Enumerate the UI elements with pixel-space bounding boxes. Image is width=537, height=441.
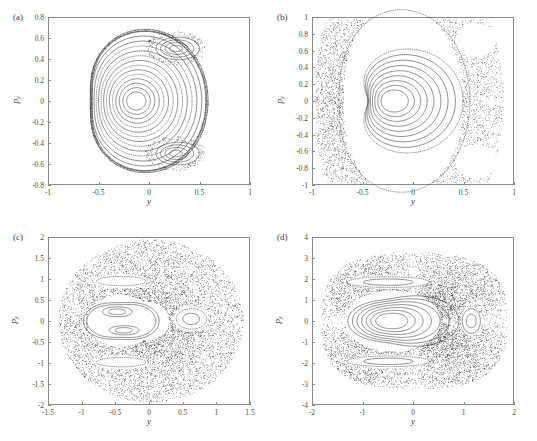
panel-b-ytickmark-2 (312, 151, 315, 152)
panel-d-ytick-7: 3 (282, 254, 308, 263)
panel-a-xtickmark-2 (149, 182, 150, 185)
panel-c-xtickmark-2 (115, 402, 116, 405)
panel-d-ytick-0: -4 (282, 401, 308, 410)
panel-b-xtick-4: 1 (512, 188, 516, 197)
panel-d-xtickmark-4 (514, 402, 515, 405)
panel-c-xtickmark-6 (250, 402, 251, 405)
panel-c-xtick-6: 1.5 (245, 408, 254, 417)
panel-b-ytickmark-1 (312, 168, 315, 169)
panel-c-xtickmark-5 (216, 402, 217, 405)
panel-d-ytick-6: 2 (282, 275, 308, 284)
panel-c-ytick-0: -2 (18, 401, 44, 410)
panel-c-xtickmark-4 (183, 402, 184, 405)
panel-d-xtick-1: -1 (359, 408, 365, 417)
panel-c-ytick-1: -1.5 (18, 380, 44, 389)
panel-b-ytick-9: 0.8 (282, 29, 308, 38)
panel-a-ytick-4: 0 (18, 97, 44, 106)
panel-c-xtick-5: 1 (214, 408, 218, 417)
panel-c-ytickmark-1 (48, 384, 51, 385)
panel-b-ytickmark-7 (312, 67, 315, 68)
panel-a-ytickmark-7 (48, 38, 51, 39)
panel-b-ytickmark-9 (312, 34, 315, 35)
panel-a-ytick-1: -0.6 (18, 160, 44, 169)
panel-b-xtickmark-1 (363, 182, 364, 185)
panel-c-ytickmark-0 (48, 405, 51, 406)
panel-a-ytick-7: 0.6 (18, 34, 44, 43)
panel-b-ytick-6: 0.2 (282, 80, 308, 89)
panel-a-xtick-2: 0 (147, 188, 151, 197)
panel-d-orbits (0, 0, 537, 441)
panel-d-ytick-3: -1 (282, 338, 308, 347)
panel-a-ytick-3: -0.2 (18, 118, 44, 127)
panel-c-xtick-1: -1 (79, 408, 85, 417)
panel-d-xtick-2: 0 (411, 408, 415, 417)
panel-b-ytick-5: 0 (282, 97, 308, 106)
panel-a-ytick-0: -0.8 (18, 181, 44, 190)
panel-a-ytickmark-8 (48, 17, 51, 18)
panel-d-ytick-1: -3 (282, 380, 308, 389)
panel-b-xtick-0: -1 (309, 188, 315, 197)
panel-d-xaxis-title: y (411, 416, 415, 426)
panel-c-ytick-3: -0.5 (18, 338, 44, 347)
panel-b-ytickmark-3 (312, 135, 315, 136)
panel-a-ytick-8: 0.8 (18, 13, 44, 22)
panel-c-ytickmark-6 (48, 279, 51, 280)
panel-a-ytick-6: 0.4 (18, 55, 44, 64)
panel-d-ytickmark-4 (312, 321, 315, 322)
panel-b-ytick-8: 0.6 (282, 46, 308, 55)
panel-d-ytick-5: 1 (282, 296, 308, 305)
panel-d-ytickmark-1 (312, 384, 315, 385)
panel-c-ytickmark-7 (48, 258, 51, 259)
panel-b-xtick-1: -0.5 (357, 188, 369, 197)
panel-b-ytick-1: -0.8 (282, 164, 308, 173)
panel-c-ytickmark-2 (48, 363, 51, 364)
panel-b-ytick-0: -1 (282, 181, 308, 190)
panel-c-xtickmark-3 (149, 402, 150, 405)
panel-b-ytick-4: -0.2 (282, 113, 308, 122)
panel-d-xtick-3: 1 (462, 408, 466, 417)
panel-b-xtickmark-3 (464, 182, 465, 185)
panel-a-ytickmark-5 (48, 80, 51, 81)
panel-b-ytickmark-10 (312, 17, 315, 18)
panel-c-ytick-4: 0 (18, 317, 44, 326)
panel-d-lower-strip-hole (347, 354, 428, 368)
panel-b-xtick-2: 0 (411, 188, 415, 197)
panel-a-ytickmark-3 (48, 122, 51, 123)
panel-c-ytickmark-4 (48, 321, 51, 322)
panel-d-xtickmark-2 (413, 402, 414, 405)
panel-d-core-hole (345, 291, 441, 352)
panel-b-ytickmark-6 (312, 84, 315, 85)
panel-a-ytick-5: 0.2 (18, 76, 44, 85)
panel-d-xtickmark-3 (464, 402, 465, 405)
panel-d-xtick-0: -2 (309, 408, 315, 417)
panel-d-ytickmark-6 (312, 279, 315, 280)
panel-b-ytick-7: 0.4 (282, 63, 308, 72)
panel-c-xtick-2: -0.5 (109, 408, 121, 417)
panel-a-ytickmark-1 (48, 164, 51, 165)
panel-a-ytickmark-6 (48, 59, 51, 60)
panel-a-xtick-3: 0.5 (195, 188, 204, 197)
panel-c-ytickmark-3 (48, 342, 51, 343)
panel-b-ytick-3: -0.4 (282, 130, 308, 139)
panel-c-ytick-7: 1.5 (18, 254, 44, 263)
panel-a-xtick-4: 1 (248, 188, 252, 197)
panel-c-ytickmark-8 (48, 237, 51, 238)
panel-d-yaxis-title-p: p (272, 319, 282, 324)
panel-a-ytickmark-0 (48, 185, 51, 186)
panel-b-ytickmark-0 (312, 185, 315, 186)
panel-d-right-island-hole (461, 306, 481, 335)
panel-b-ytick-10: 1 (282, 13, 308, 22)
panel-c-ytick-5: 0.5 (18, 296, 44, 305)
panel-b-xtickmark-4 (514, 182, 515, 185)
panel-a-xtickmark-3 (200, 182, 201, 185)
panel-b-xtickmark-2 (413, 182, 414, 185)
panel-a-xtickmark-4 (250, 182, 251, 185)
panel-c-ytick-8: 2 (18, 233, 44, 242)
panel-b-ytickmark-4 (312, 118, 315, 119)
panel-b-ytickmark-5 (312, 101, 315, 102)
panel-c-xtickmark-1 (82, 402, 83, 405)
panel-d-ytickmark-0 (312, 405, 315, 406)
panel-d-ytickmark-3 (312, 342, 315, 343)
panel-d-upper-strip-hole (347, 275, 428, 289)
panel-c-ytickmark-5 (48, 300, 51, 301)
